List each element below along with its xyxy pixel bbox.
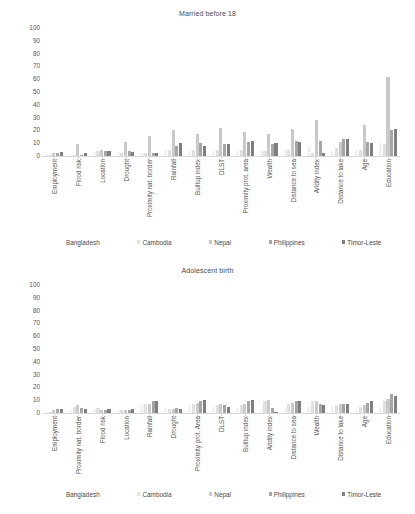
bar [247, 142, 250, 156]
bar [80, 155, 83, 156]
plot-area-adolescent-birth [42, 285, 400, 413]
bar [216, 150, 219, 156]
y-tick-label: 100 [29, 282, 40, 288]
x-axis-label: Location [98, 159, 105, 183]
y-tick-label: 20 [33, 384, 40, 390]
bar [383, 401, 386, 413]
legend-label: Timor-Leste [347, 491, 381, 498]
bar-group [257, 285, 281, 413]
bar [287, 404, 290, 413]
bar [144, 153, 147, 156]
y-tick-label: 30 [33, 372, 40, 378]
y-tick-label: 10 [33, 397, 40, 403]
y-axis-married-before-18: 1009080706050403020100 [14, 28, 40, 156]
bar [131, 409, 134, 413]
y-tick-label: 0 [36, 410, 40, 416]
bar [155, 401, 158, 413]
bar [386, 399, 389, 413]
y-tick-label: 50 [33, 346, 40, 352]
bar [322, 405, 325, 413]
bar [271, 144, 274, 156]
bar [355, 150, 358, 156]
bar [319, 141, 322, 156]
bar [107, 409, 110, 413]
bar-group [304, 285, 328, 413]
bar-group [209, 285, 233, 413]
x-axis-label: Distance to lake [337, 159, 344, 204]
bar [274, 412, 277, 413]
legend-swatch-icon [209, 240, 212, 243]
bar [192, 150, 195, 156]
legend-label: Bangladesh [66, 491, 100, 498]
bar-group [185, 28, 209, 156]
legend-item[interactable]: Nepal [209, 491, 231, 498]
y-tick-label: 90 [33, 38, 40, 44]
bar [164, 408, 167, 413]
y-tick-label: 80 [33, 51, 40, 57]
legend-item[interactable]: Nepal [209, 239, 231, 246]
x-axis-label: Age [361, 416, 368, 427]
bar [284, 150, 287, 156]
bar [295, 401, 298, 413]
legend-item[interactable]: Philippines [269, 491, 305, 498]
y-tick-label: 70 [33, 63, 40, 69]
bar [291, 129, 294, 156]
bar [196, 403, 199, 413]
bar [267, 400, 270, 413]
legend-swatch-icon [137, 492, 140, 495]
bar [144, 404, 147, 413]
bar [179, 143, 182, 156]
bar [73, 155, 76, 156]
legend-item[interactable]: Timor-Leste [342, 239, 381, 246]
bar [219, 404, 222, 413]
bar-group [209, 28, 233, 156]
legend-item[interactable]: Cambodia [137, 491, 171, 498]
x-axis-label: Drought [122, 159, 129, 181]
plot-area-married-before-18 [42, 28, 400, 156]
bar [274, 143, 277, 156]
bar [128, 151, 131, 156]
chart-panel-adolescent-birth: Adolescent birth 1009080706050403020100 … [0, 257, 415, 514]
bar [49, 155, 52, 156]
bar [315, 120, 318, 156]
legend-swatch-icon [209, 492, 212, 495]
bar [148, 136, 151, 156]
bar [260, 151, 263, 156]
bar [227, 144, 230, 156]
bar-group [42, 285, 66, 413]
bar [394, 129, 397, 156]
bar-group [90, 28, 114, 156]
bar [164, 150, 167, 156]
bar [331, 407, 334, 413]
chart-title-adolescent-birth: Adolescent birth [0, 267, 415, 274]
bar [271, 408, 274, 413]
x-axis-label: Aridity index [265, 416, 272, 450]
legend-item[interactable]: Bangladesh [61, 239, 100, 246]
legend-item[interactable]: Bangladesh [61, 491, 100, 498]
bar [76, 144, 79, 156]
bar [188, 151, 191, 156]
bar-group [185, 285, 209, 413]
bar [260, 409, 263, 413]
bar [152, 153, 155, 156]
bar [383, 144, 386, 156]
legend-item[interactable]: Cambodia [137, 239, 171, 246]
legend-label: Bangladesh [66, 239, 100, 246]
bar [366, 142, 369, 156]
bar-groups-adolescent-birth [42, 285, 400, 413]
y-tick-label: 60 [33, 76, 40, 82]
bar [342, 139, 345, 156]
legend-item[interactable]: Philippines [269, 239, 305, 246]
bar [319, 404, 322, 413]
bar [298, 142, 301, 156]
bar [307, 407, 310, 413]
bar [120, 153, 123, 156]
bar [240, 150, 243, 156]
bar-group [376, 285, 400, 413]
bar [363, 405, 366, 413]
chart-title-married-before-18: Married before 18 [0, 10, 415, 17]
legend-item[interactable]: Timor-Leste [342, 491, 381, 498]
bar-group [233, 285, 257, 413]
x-axis-label: Rainfall [146, 416, 153, 437]
bar [386, 77, 389, 156]
